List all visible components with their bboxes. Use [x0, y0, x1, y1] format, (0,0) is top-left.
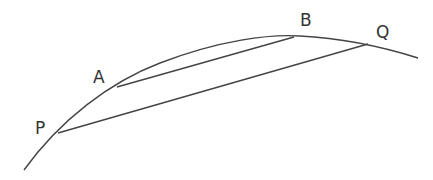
label-q: Q: [376, 22, 389, 42]
diagram-canvas: P A B Q: [0, 0, 433, 180]
label-b: B: [300, 10, 312, 30]
chord-pq: [58, 44, 368, 133]
curve: [24, 36, 418, 170]
chord-ab: [117, 37, 294, 87]
label-a: A: [93, 67, 105, 87]
label-p: P: [35, 118, 45, 138]
